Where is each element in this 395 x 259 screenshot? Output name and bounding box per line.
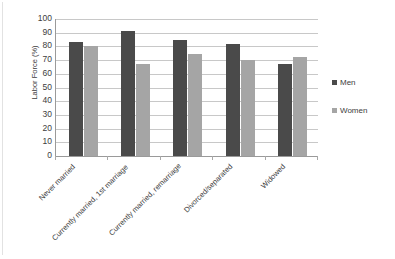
legend-entry-women[interactable]: Women <box>332 106 367 115</box>
x-axis-category-label: Never married <box>37 162 77 202</box>
x-axis-category-labels: Never marriedCurrently married, 1st marr… <box>0 0 395 259</box>
legend-label-men: Men <box>340 78 356 87</box>
legend-swatch-men-icon <box>332 80 337 85</box>
x-axis-category-label: Widowed <box>259 162 287 190</box>
legend-swatch-women-icon <box>332 108 337 113</box>
bar-chart: Labor Force (%) 0102030405060708090100 N… <box>0 0 395 259</box>
x-axis-category-label: Divorced/separated <box>182 162 234 214</box>
legend-entry-men[interactable]: Men <box>332 78 356 87</box>
legend-label-women: Women <box>340 106 367 115</box>
